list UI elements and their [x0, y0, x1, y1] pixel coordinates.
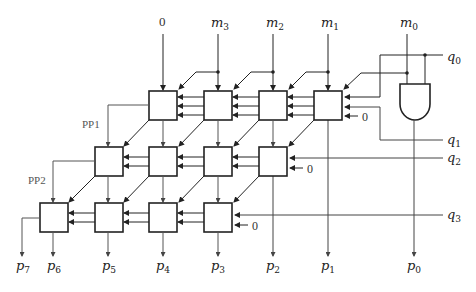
cell [259, 147, 287, 176]
cell [95, 147, 123, 176]
output-p0-label: p0 [407, 258, 421, 275]
output-p2-label: p2 [266, 258, 280, 275]
cell [314, 91, 342, 120]
multiplier-diagram: 0 m3 m2 m1 m0 q0 q1 q2 q3 p7 p6 p5 p4 p3… [0, 0, 476, 292]
cell [204, 203, 232, 232]
row2-horizontal-links [124, 157, 259, 166]
cell [95, 203, 123, 232]
cell [40, 203, 68, 232]
right-input-labels: q0 q1 q2 q3 [447, 49, 461, 224]
output-p4-label: p4 [156, 258, 170, 275]
pp2-wire [53, 161, 95, 202]
input-m3-label: m3 [211, 15, 229, 32]
output-labels: p7 p6 p5 p4 p3 p2 p1 p0 [16, 258, 421, 275]
input-m2-label: m2 [266, 15, 284, 32]
output-p7-label: p7 [16, 258, 30, 275]
input-m1-label: m1 [321, 15, 339, 32]
cell [149, 91, 177, 120]
input-m0-label: m0 [400, 15, 418, 32]
input-zero-label: 0 [159, 14, 166, 29]
row1-horizontal-links [178, 97, 314, 115]
output-p3-label: p3 [211, 258, 225, 275]
pp1-label: PP1 [82, 118, 100, 130]
row-2 [95, 147, 287, 176]
pp2-label: PP2 [28, 174, 46, 186]
cell [259, 91, 287, 120]
input-q0-label: q0 [447, 49, 461, 66]
output-p5-label: p5 [102, 258, 116, 275]
top-input-labels: 0 m3 m2 m1 m0 [159, 14, 418, 32]
row3-zero-label: 0 [252, 219, 258, 233]
cell [204, 91, 232, 120]
pp1-wire [108, 105, 149, 146]
row1-zero-label: 0 [362, 110, 368, 124]
row-3 [40, 203, 232, 232]
output-p6-label: p6 [47, 258, 61, 275]
row1-to-row2-links [124, 120, 314, 146]
cell [149, 147, 177, 176]
top-input-wires [163, 34, 407, 90]
cell [204, 147, 232, 176]
row2-to-row3-links [69, 176, 259, 202]
row2-zero-label: 0 [307, 162, 313, 176]
input-q2-label: q2 [447, 150, 461, 167]
row3-horizontal-links [69, 213, 204, 222]
input-q3-label: q3 [447, 207, 461, 224]
and-gate [400, 84, 430, 120]
input-q1-label: q1 [447, 132, 461, 149]
output-p1-label: p1 [321, 258, 335, 275]
cell [149, 203, 177, 232]
